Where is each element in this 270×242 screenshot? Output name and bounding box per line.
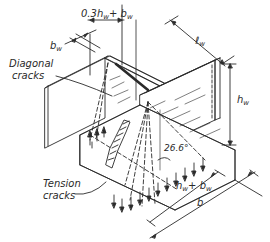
tension-cracks-label: Tension cracks [43, 179, 81, 201]
tension-cracks-label-line2: cracks [43, 191, 81, 201]
top-offset-plus: + b [109, 8, 127, 19]
bw-dimension-label: bw [50, 41, 62, 53]
lw-dimension-label: ℓw [195, 36, 205, 48]
hw-dimension-label: hw [237, 95, 249, 107]
top-offset-sub2: w [127, 13, 133, 21]
hw-sub: w [243, 99, 249, 107]
angle-label: 26.6° [164, 144, 189, 153]
b-main: b [197, 197, 203, 208]
top-offset-main: 0.3h [81, 8, 103, 19]
lw-sub: w [199, 40, 205, 48]
hw-bw-plus: + b [188, 180, 206, 191]
diagonal-cracks-label-line2: cracks [12, 71, 53, 81]
diagonal-cracks-label: Diagonal cracks [9, 59, 53, 81]
dimension-hw [222, 64, 236, 145]
angle-value: 26.6° [164, 143, 189, 153]
hw-bw-dimension-label: hw+ bw [176, 181, 212, 193]
top-offset-dimension-label: 0.3hw+ bw [81, 9, 133, 21]
bw-sub: w [56, 45, 62, 53]
wall-crack-diagram [0, 0, 270, 242]
dimension-bw [65, 30, 100, 52]
tension-cracks-label-line1: Tension [43, 179, 81, 189]
hw-bw-sub2: w [206, 185, 212, 193]
b-dimension-label: b [197, 198, 203, 208]
diagonal-cracks-label-line1: Diagonal [9, 59, 53, 69]
